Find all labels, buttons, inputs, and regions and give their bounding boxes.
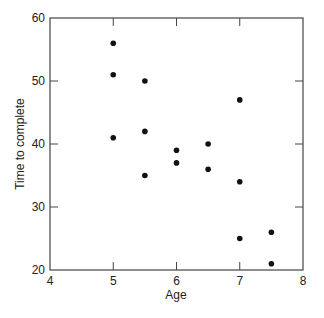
scatter-chart: 456782030405060 Age Time to complete <box>0 0 324 318</box>
data-point <box>142 78 148 84</box>
data-point <box>174 160 180 166</box>
data-point <box>205 166 211 172</box>
y-tick-label: 40 <box>32 137 46 151</box>
y-tick-label: 20 <box>32 263 46 277</box>
x-tick-label: 4 <box>47 274 54 288</box>
data-point <box>237 236 243 242</box>
data-point <box>142 129 148 135</box>
x-tick-label: 7 <box>236 274 243 288</box>
data-point <box>205 141 211 147</box>
data-point <box>142 173 148 179</box>
data-point <box>110 40 116 46</box>
tick-labels: 456782030405060 <box>32 11 307 288</box>
y-tick-label: 50 <box>32 74 46 88</box>
x-tick-label: 8 <box>300 274 307 288</box>
data-point <box>174 148 180 154</box>
plot-frame <box>50 18 303 270</box>
data-point <box>237 179 243 185</box>
y-tick-label: 60 <box>32 11 46 25</box>
y-axis-label: Time to complete <box>13 98 27 190</box>
data-point <box>110 135 116 141</box>
data-point <box>269 229 275 235</box>
data-point <box>110 72 116 78</box>
data-point <box>269 261 275 267</box>
x-tick-label: 5 <box>110 274 117 288</box>
data-points <box>110 40 274 266</box>
data-point <box>237 97 243 103</box>
y-tick-label: 30 <box>32 200 46 214</box>
axis-ticks <box>50 18 303 270</box>
x-tick-label: 6 <box>173 274 180 288</box>
x-axis-label: Age <box>165 288 187 302</box>
